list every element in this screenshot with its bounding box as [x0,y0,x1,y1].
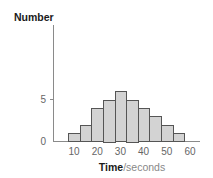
x-axis-label-main: Time [99,161,123,173]
x-tick-label: 40 [134,146,154,157]
y-axis-label: Number [14,11,54,23]
y-axis-line [53,25,54,142]
x-tick-label: 20 [87,146,107,157]
y-tick-label: 5 [34,94,46,105]
y-tick-label: 0 [34,136,46,147]
histogram-chart: Number 05 102030405060 Time/seconds [0,0,213,178]
x-tick-label: 50 [157,146,177,157]
x-tick-label: 10 [64,146,84,157]
x-tick-label: 30 [110,146,130,157]
x-tick-label: 60 [180,146,200,157]
x-axis-label: Time/seconds [0,161,213,173]
y-tick-mark [50,99,54,100]
histogram-bar [173,133,186,142]
x-axis-label-unit: /seconds [123,161,165,173]
